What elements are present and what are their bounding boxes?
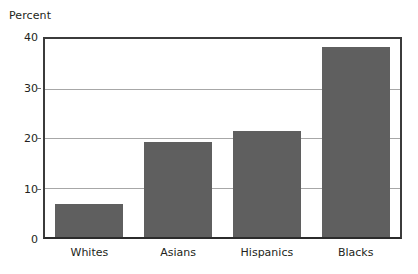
y-axis-title: Percent [9, 9, 51, 22]
clipped-caption [0, 269, 418, 274]
x-axis-tick-label-blacks: Blacks [311, 246, 400, 260]
y-axis-tick-mark [36, 88, 41, 89]
y-axis-tick-mark [36, 189, 41, 190]
x-axis-tick-labels: WhitesAsiansHispanicsBlacks [45, 246, 400, 264]
bar-asians [144, 142, 212, 237]
y-axis-tick-labels: 010203040 [0, 37, 38, 239]
y-axis-tick-label: 10 [4, 183, 38, 194]
bar-whites [55, 204, 123, 238]
bar-blacks [322, 47, 390, 237]
x-axis-tick-label-hispanics: Hispanics [223, 246, 312, 260]
bar-chart-figure: Percent 010203040 WhitesAsiansHispanicsB… [0, 0, 418, 274]
x-axis-tick-label-whites: Whites [45, 246, 134, 260]
bar-hispanics [233, 131, 301, 238]
y-axis-tick-label: 0 [4, 234, 38, 245]
y-axis-tick-label: 30 [4, 82, 38, 93]
y-axis-tick-mark [36, 138, 41, 139]
x-axis-tick-label-asians: Asians [134, 246, 223, 260]
y-axis-tick-label: 40 [4, 32, 38, 43]
bars-layer [45, 37, 400, 237]
y-axis-tick-label: 20 [4, 133, 38, 144]
